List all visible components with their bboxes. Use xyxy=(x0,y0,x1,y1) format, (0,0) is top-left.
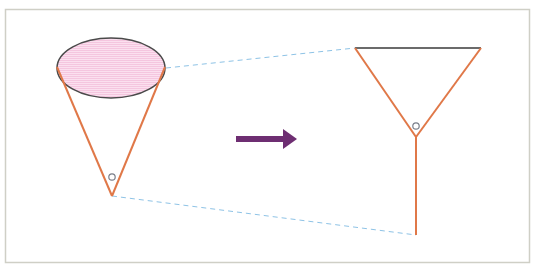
diagram-canvas xyxy=(0,0,542,271)
cone-marker-circle xyxy=(109,174,115,180)
cone-base-ellipse xyxy=(57,38,165,98)
diagram-svg xyxy=(0,0,542,271)
triangle-marker-circle xyxy=(413,123,419,129)
